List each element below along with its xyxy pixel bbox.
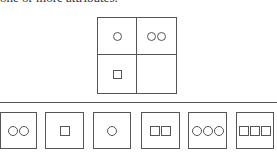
circle-icon — [214, 126, 224, 136]
circle-icon — [157, 32, 166, 41]
answer-option-2[interactable] — [45, 112, 84, 149]
circle-icon — [203, 126, 213, 136]
circle-icon — [107, 126, 117, 136]
puzzle-matrix — [97, 17, 177, 94]
circle-icon — [113, 32, 122, 41]
square-icon — [60, 126, 70, 136]
square-icon — [250, 126, 260, 136]
caption-text: one or more attributes. — [0, 0, 118, 5]
circle-icon — [147, 32, 156, 41]
matrix-cell — [98, 18, 137, 55]
circle-icon — [19, 126, 29, 136]
matrix-cell-missing — [137, 55, 176, 93]
matrix-cell — [98, 55, 137, 93]
square-icon — [161, 126, 171, 136]
circle-icon — [8, 126, 18, 136]
square-icon — [261, 126, 271, 136]
answer-option-3[interactable] — [93, 112, 131, 149]
divider-line — [0, 102, 277, 103]
circle-icon — [192, 126, 202, 136]
answer-option-5[interactable] — [188, 112, 227, 149]
answer-option-1[interactable] — [0, 112, 37, 149]
matrix-cell — [137, 18, 176, 55]
square-icon — [150, 126, 160, 136]
answer-option-6[interactable] — [236, 112, 274, 149]
square-icon — [113, 70, 122, 79]
square-icon — [239, 126, 249, 136]
answer-option-4[interactable] — [141, 112, 180, 149]
